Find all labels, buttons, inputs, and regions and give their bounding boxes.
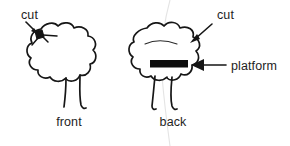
front-left-stem bbox=[64, 78, 66, 107]
figure-canvas: cut front cut platform back bbox=[0, 0, 290, 146]
back-caption: back bbox=[160, 115, 187, 129]
front-view-panel: cut front bbox=[21, 8, 96, 129]
back-view-panel: cut platform back bbox=[129, 8, 277, 129]
back-cut-label: cut bbox=[217, 8, 234, 22]
platform-label: platform bbox=[231, 59, 277, 73]
platform-bar bbox=[150, 60, 188, 68]
back-left-stem bbox=[152, 76, 156, 109]
front-caption: front bbox=[56, 115, 82, 129]
front-cut-label: cut bbox=[21, 8, 38, 22]
brain-cut-platform-figure: cut front cut platform back bbox=[0, 0, 290, 146]
front-cut-incision-line bbox=[43, 35, 57, 36]
front-right-stem bbox=[80, 75, 86, 108]
back-right-stem bbox=[171, 77, 177, 109]
back-brain-outline bbox=[129, 22, 200, 80]
